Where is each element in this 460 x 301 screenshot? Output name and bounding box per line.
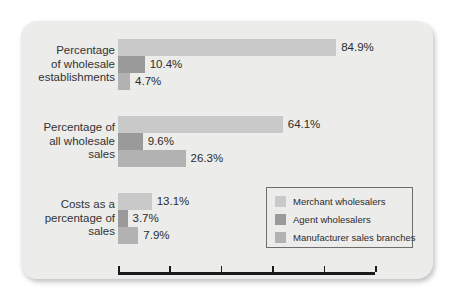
category-label: Percentage ofall wholesalesales — [29, 121, 115, 162]
x-axis-tick-label: 60.0% — [249, 277, 295, 279]
bar-value-label: 7.9% — [143, 227, 169, 244]
x-axis-tick-label: 0.0% — [95, 277, 141, 279]
bar-0-1 — [118, 116, 283, 133]
legend-label: Merchant wholesalers — [293, 195, 385, 208]
category-label-line: of wholesale — [29, 58, 115, 72]
bar-value-label: 13.1% — [157, 193, 190, 210]
bar-1-2 — [118, 210, 128, 227]
bar-value-label: 84.9% — [341, 39, 374, 56]
bar-value-label: 4.7% — [135, 73, 161, 90]
legend-label: Agent wholesalers — [293, 213, 371, 226]
x-axis-tick-label: 20.0% — [146, 277, 192, 279]
bar-2-1 — [118, 150, 186, 167]
chart-legend: Merchant wholesalersAgent wholesalersMan… — [266, 187, 413, 248]
bar-2-2 — [118, 227, 138, 244]
x-axis-line — [118, 272, 375, 275]
legend-swatch — [275, 214, 286, 225]
bar-value-label: 26.3% — [191, 150, 224, 167]
bar-0-0 — [118, 39, 336, 56]
legend-label: Manufacturer sales branches — [293, 231, 416, 244]
chart-card: Percentageof wholesaleestablishmentsPerc… — [21, 21, 433, 279]
category-label-line: Percentage — [29, 44, 115, 58]
bar-value-label: 3.7% — [133, 210, 159, 227]
x-axis-tick-label: 40.0% — [198, 277, 244, 279]
bar-value-label: 9.6% — [148, 133, 174, 150]
legend-swatch — [275, 196, 286, 207]
category-label-line: Percentage of — [29, 121, 115, 135]
bar-1-1 — [118, 133, 143, 150]
x-axis-tick — [375, 266, 377, 272]
x-axis-tick-label: 80.0% — [301, 277, 347, 279]
category-label-line: all wholesale — [29, 135, 115, 149]
category-label: Costs as apercentage ofsales — [29, 198, 115, 239]
bar-value-label: 10.4% — [150, 56, 183, 73]
category-label-line: sales — [29, 148, 115, 162]
category-label-line: sales — [29, 225, 115, 239]
category-label-line: percentage of — [29, 212, 115, 226]
legend-swatch — [275, 232, 286, 243]
category-label-line: establishments — [29, 71, 115, 85]
x-axis-tick-label: 100.0% — [352, 277, 398, 279]
bar-2-0 — [118, 73, 130, 90]
category-label: Percentageof wholesaleestablishments — [29, 44, 115, 85]
bar-0-2 — [118, 193, 152, 210]
category-label-line: Costs as a — [29, 198, 115, 212]
bar-value-label: 64.1% — [288, 116, 321, 133]
bar-1-0 — [118, 56, 145, 73]
